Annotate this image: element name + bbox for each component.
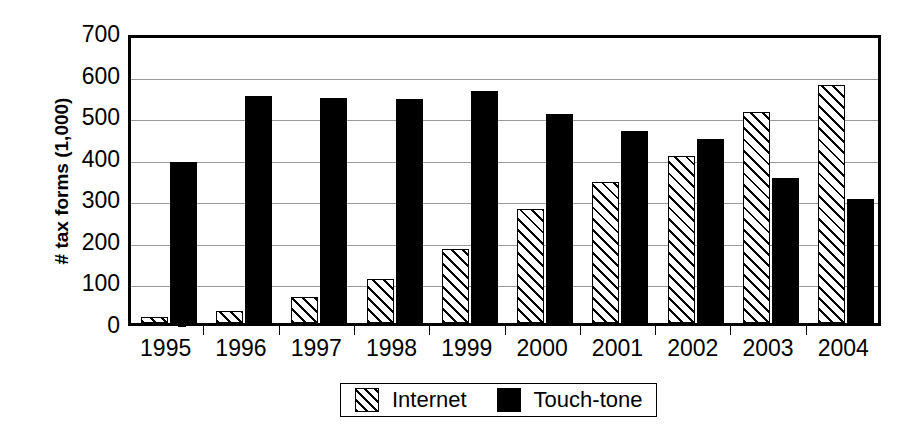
bar-group	[206, 38, 281, 323]
y-axis-tick-label: 700	[64, 23, 120, 46]
bar-group	[508, 38, 583, 323]
legend-swatch-touchtone-icon	[497, 388, 521, 412]
bar-internet-2004	[818, 85, 845, 323]
chart-legend: Internet Touch-tone	[340, 383, 657, 417]
bar-group	[282, 38, 357, 323]
bar-internet-1995	[141, 317, 168, 323]
x-axis-tick-label-2004: 2004	[798, 335, 888, 361]
x-axis-tick-mark	[730, 326, 731, 335]
bar-touch-tone-1996	[245, 96, 272, 323]
y-axis-tick-labels: 0100200300400500600700	[58, 0, 120, 439]
y-axis-tick-label: 100	[64, 272, 120, 295]
bar-internet-2002	[668, 156, 695, 323]
x-axis-tick-mark	[354, 326, 355, 335]
legend-label-internet: Internet	[392, 389, 467, 411]
bar-group	[658, 38, 733, 323]
legend-label-touchtone: Touch-tone	[534, 389, 643, 411]
x-axis-tick-mark	[806, 326, 807, 335]
bar-touch-tone-1998	[396, 99, 423, 323]
y-axis-tick-label: 200	[64, 231, 120, 254]
x-axis-tick-mark	[429, 326, 430, 335]
bar-group	[432, 38, 507, 323]
x-axis-tick-mark	[279, 326, 280, 335]
x-axis: 1995199619971998199920002001200220032004	[128, 326, 881, 372]
bar-group	[131, 38, 206, 323]
bar-group	[357, 38, 432, 323]
bar-touch-tone-1995	[170, 162, 197, 323]
bar-touch-tone-2003	[772, 178, 799, 324]
bar-group	[583, 38, 658, 323]
x-axis-tick-mark	[505, 326, 506, 335]
plot-area	[128, 35, 881, 326]
bar-touch-tone-2004	[847, 199, 874, 323]
x-axis-tick-mark	[580, 326, 581, 335]
bar-group	[809, 38, 884, 323]
y-axis-tick-label: 400	[64, 148, 120, 171]
bar-internet-2000	[517, 209, 544, 323]
bar-touch-tone-2000	[546, 114, 573, 323]
bar-touch-tone-1999	[471, 91, 498, 323]
bar-internet-2003	[743, 112, 770, 323]
x-axis-tick-mark	[203, 326, 204, 335]
plot-inner	[131, 38, 878, 323]
legend-item-internet: Internet	[355, 388, 467, 412]
y-axis-tick-label: 0	[64, 314, 120, 337]
bar-chart: # tax forms (1,000) 01002003004005006007…	[0, 0, 911, 439]
bar-internet-1998	[367, 279, 394, 323]
bar-internet-2001	[592, 182, 619, 323]
bar-internet-1996	[216, 311, 243, 323]
bar-touch-tone-2002	[697, 139, 724, 323]
legend-item-touchtone: Touch-tone	[497, 388, 643, 412]
bar-touch-tone-1997	[320, 98, 347, 323]
legend-swatch-internet-icon	[355, 388, 379, 412]
y-axis-tick-label: 300	[64, 189, 120, 212]
y-axis-tick-label: 600	[64, 65, 120, 88]
bar-touch-tone-2001	[621, 131, 648, 323]
x-axis-tick-mark	[655, 326, 656, 335]
bar-internet-1999	[442, 249, 469, 323]
bar-group	[733, 38, 808, 323]
y-axis-tick-label: 500	[64, 106, 120, 129]
bar-internet-1997	[291, 297, 318, 323]
